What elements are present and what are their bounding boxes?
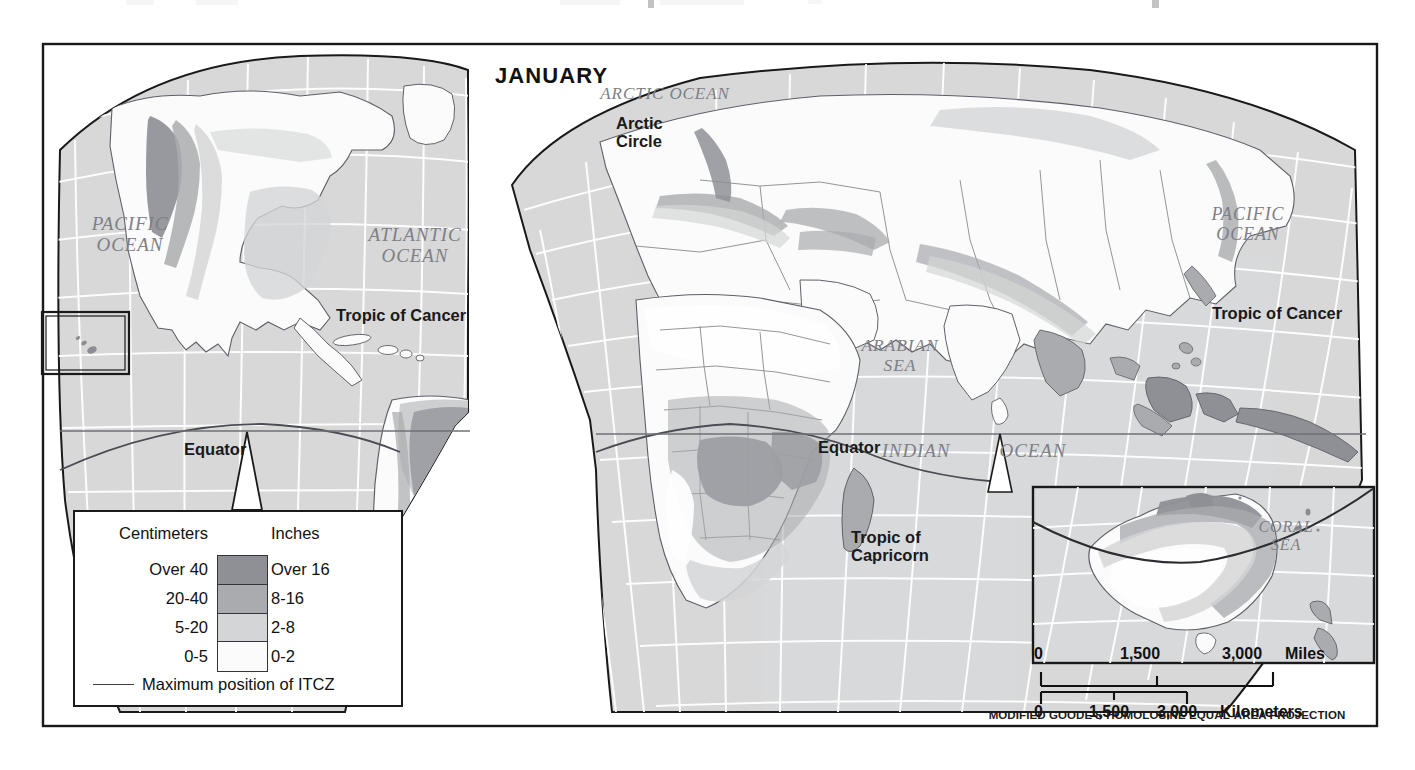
arctic-circle-label: Arctic Circle — [616, 114, 663, 151]
legend-swatch-5-20 — [218, 614, 267, 643]
indian-ocean-label-indian: INDIAN — [868, 440, 964, 461]
legend-swatch-0-5 — [218, 642, 267, 671]
legend-in-8-16: 8-16 — [271, 589, 304, 608]
atlantic-ocean-label: ATLANTIC OCEAN — [345, 224, 485, 267]
legend-itcz-row: Maximum position of ITCZ — [93, 675, 335, 694]
legend-swatch-stack — [217, 555, 268, 672]
legend-cm-5-20: 5-20 — [175, 618, 208, 637]
map-page: JANUARY PACIFIC OCEAN ATLANTIC OCEAN ARC… — [0, 0, 1415, 770]
legend-heading-inches: Inches — [271, 524, 320, 543]
legend-panel: Centimeters Inches Over 40 Over 16 20-40… — [73, 510, 403, 707]
legend-in-0-2: 0-2 — [271, 647, 295, 666]
coral-sea-label: CORAL SEA — [1240, 518, 1332, 554]
legend-cm-over-40: Over 40 — [149, 560, 208, 579]
pacific-ocean-right-label: PACIFIC OCEAN — [1188, 204, 1308, 244]
equator-left-label: Equator — [184, 440, 246, 458]
legend-in-2-8: 2-8 — [271, 618, 295, 637]
legend-swatch-20-40 — [218, 585, 267, 614]
indian-ocean-label-ocean: OCEAN — [985, 440, 1081, 461]
scale-miles-tick-0: 0 — [1034, 645, 1043, 663]
equator-right-label: Equator — [818, 438, 880, 456]
legend-cm-0-5: 0-5 — [184, 647, 208, 666]
legend-cm-20-40: 20-40 — [166, 589, 208, 608]
scale-miles-numbers: 0 1,500 3,000 Miles — [985, 645, 1385, 664]
scale-miles-unit: Miles — [1285, 645, 1325, 663]
scale-miles-tick-2: 3,000 — [1222, 645, 1262, 663]
australia-inset — [1033, 487, 1374, 663]
legend-itcz-label: Maximum position of ITCZ — [142, 675, 335, 694]
arctic-ocean-label: ARCTIC OCEAN — [570, 84, 760, 103]
tropic-of-capricorn-label: Tropic of Capricorn — [851, 528, 929, 565]
projection-note: MODIFIED GOODE'S HOMOLOSINE EQUAL-AREA P… — [952, 709, 1382, 721]
pacific-ocean-left-label: PACIFIC OCEAN — [60, 213, 200, 256]
scale-miles-tick-1: 1,500 — [1120, 645, 1160, 663]
tropic-of-cancer-left-label: Tropic of Cancer — [336, 306, 466, 324]
arabian-sea-label: ARABIAN SEA — [845, 336, 955, 375]
greenland — [403, 84, 455, 144]
legend-heading-centimeters: Centimeters — [119, 524, 208, 543]
legend-in-over-16: Over 16 — [271, 560, 330, 579]
tropic-of-cancer-right-label: Tropic of Cancer — [1212, 304, 1342, 322]
legend-swatch-over-40 — [218, 556, 267, 585]
itcz-line-swatch — [93, 684, 134, 685]
